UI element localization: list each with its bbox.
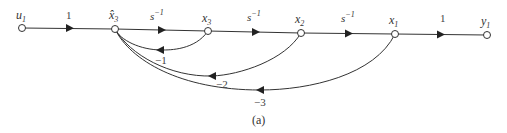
node-x3hat [112,26,119,33]
arrow-icon [256,86,264,94]
gain-feedback-x2: −2 [216,78,228,90]
node-x1 [392,31,399,38]
node-x2 [298,30,305,37]
feedback-x2-x3hat [115,29,301,76]
arrow-icon [158,26,166,34]
node-label-x1: x1 [389,13,398,29]
arrow-icon [345,30,353,38]
gain-feedback-x3: −1 [155,54,167,66]
node-y1 [484,32,491,39]
arrow-icon [208,72,216,80]
arrow-icon [252,28,260,36]
arrow-icon [66,24,74,32]
gain-x3hat-x3: s−1 [150,8,164,22]
node-x3 [205,28,212,35]
arrow-icon [437,31,445,39]
gain-x1-y1: 1 [440,12,446,24]
node-label-y1: y1 [481,14,490,30]
node-label-x2: x2 [295,12,304,28]
node-label-u1: u1 [16,8,26,24]
figure-caption: (a) [252,113,265,128]
node-u1 [19,25,26,32]
gain-x3-x2: s−1 [247,9,261,23]
gain-x2-x1: s−1 [341,10,355,24]
gain-u1-x3hat: 1 [66,9,72,21]
node-label-x3: x3 [202,11,211,27]
gain-feedback-x1: −3 [254,96,266,108]
arrow-icon [156,46,164,54]
node-label-x3hat: x̂3 [109,8,118,24]
